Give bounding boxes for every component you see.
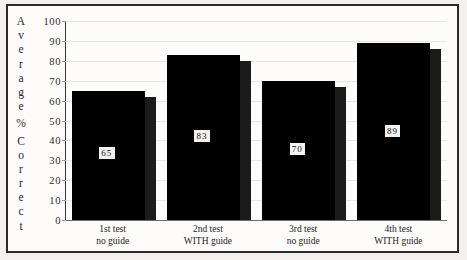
chart-screenshot: Average%Correct 1009080706050403020100 6…	[0, 0, 467, 260]
x-axis-category-labels: 1st testno guide2nd testWITH guide3rd te…	[65, 224, 446, 254]
bar[interactable]: 65	[72, 91, 156, 220]
y-axis-tick-mark	[62, 220, 66, 221]
x-label-line-2: WITH guide	[351, 236, 446, 248]
bar-side-face	[145, 97, 156, 220]
y-axis-tick-label: 70	[33, 75, 61, 86]
bar[interactable]: 89	[357, 43, 441, 220]
y-axis-tick-label: 0	[33, 215, 61, 226]
x-axis-category-label: 2nd testWITH guide	[160, 224, 255, 247]
y-axis-title-char: e	[18, 99, 23, 113]
y-axis-title-char: r	[19, 176, 23, 190]
y-axis-title-char: e	[18, 190, 23, 204]
bar-side-face	[240, 61, 251, 220]
y-axis-title: Average%Correct	[11, 14, 31, 246]
bar-side-face	[335, 87, 346, 220]
bar[interactable]: 70	[262, 81, 346, 220]
y-axis-tick-label: 40	[33, 135, 61, 146]
x-label-line-1: 3rd test	[256, 224, 351, 236]
y-axis-title-char: c	[18, 204, 23, 218]
y-axis-tick-label: 100	[33, 16, 61, 27]
y-axis-title-char: v	[18, 28, 24, 42]
y-axis-title-char: r	[19, 57, 23, 71]
y-axis-tick-labels: 1009080706050403020100	[33, 15, 61, 227]
plot-area: 65837089	[65, 21, 447, 221]
y-axis-tick-label: 20	[33, 175, 61, 186]
y-axis-tick-label: 10	[33, 195, 61, 206]
bar-value-label: 83	[194, 130, 209, 142]
x-label-line-1: 2nd test	[160, 224, 255, 236]
x-axis-category-label: 4th testWITH guide	[351, 224, 446, 247]
bar-series: 65837089	[66, 21, 447, 220]
x-label-line-1: 1st test	[65, 224, 160, 236]
y-axis-title-char: o	[18, 148, 24, 162]
y-axis-tick-label: 60	[33, 95, 61, 106]
y-axis-tick-label: 30	[33, 155, 61, 166]
y-axis-tick-label: 80	[33, 55, 61, 66]
y-axis-title-char: C	[17, 134, 25, 148]
x-axis-category-label: 3rd testno guide	[256, 224, 351, 247]
bar-side-face	[430, 49, 441, 220]
x-label-line-2: no guide	[65, 236, 160, 248]
x-label-line-1: 4th test	[351, 224, 446, 236]
y-axis-title-char: %	[16, 116, 26, 130]
x-label-line-2: no guide	[256, 236, 351, 248]
y-axis-title-char: A	[17, 14, 25, 28]
y-axis-tick-label: 90	[33, 35, 61, 46]
bar[interactable]: 83	[167, 55, 251, 220]
y-axis-title-char: a	[18, 71, 23, 85]
y-axis-tick-label: 50	[33, 115, 61, 126]
y-axis-title-char: t	[19, 219, 22, 233]
y-axis-title-char: e	[18, 42, 23, 56]
x-axis-category-label: 1st testno guide	[65, 224, 160, 247]
bar-value-label: 70	[290, 143, 305, 155]
x-label-line-2: WITH guide	[160, 236, 255, 248]
bar-value-label: 89	[385, 125, 400, 137]
y-axis-title-char: r	[19, 162, 23, 176]
y-axis-title-char: g	[18, 85, 24, 99]
bar-value-label: 65	[99, 147, 114, 159]
